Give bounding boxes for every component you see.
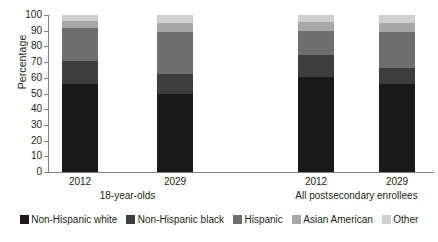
y-axis-tick-label: 80 <box>16 41 42 51</box>
legend-item[interactable]: Hispanic <box>233 214 283 225</box>
y-axis-tick-label: 10 <box>16 151 42 161</box>
bar-segment[interactable] <box>298 31 334 55</box>
y-axis-tick-mark <box>44 31 48 32</box>
y-axis-tick-label: 40 <box>16 104 42 114</box>
bar-segment[interactable] <box>298 77 334 172</box>
legend-swatch-icon <box>292 215 301 224</box>
legend-item[interactable]: Other <box>382 214 419 225</box>
y-axis-tick-mark <box>44 15 48 16</box>
y-axis-tick-mark <box>44 156 48 157</box>
y-axis-tick-labels: 0102030405060708090100 <box>16 8 42 180</box>
x-axis-group-label: All postsecondary enrollees <box>267 190 438 201</box>
y-axis-tick-label: 70 <box>16 57 42 67</box>
bar-segment[interactable] <box>157 23 193 32</box>
bar-segment[interactable] <box>62 28 98 62</box>
y-axis-tick-mark <box>44 109 48 110</box>
legend-item[interactable]: Non-Hispanic black <box>126 214 224 225</box>
y-axis-tick-mark <box>44 62 48 63</box>
bar-segment[interactable] <box>379 84 415 172</box>
bar-segment[interactable] <box>298 55 334 77</box>
y-axis-tick-mark <box>44 141 48 142</box>
legend-swatch-icon <box>126 215 135 224</box>
bar-segment[interactable] <box>379 32 415 68</box>
chart-legend: Non-Hispanic whiteNon-Hispanic blackHisp… <box>0 214 438 225</box>
legend-swatch-icon <box>20 215 29 224</box>
y-axis-tick-mark <box>44 172 48 173</box>
bar-segment[interactable] <box>379 15 415 23</box>
legend-item[interactable]: Non-Hispanic white <box>20 214 118 225</box>
stacked-bar-chart: Percentage 0102030405060708090100 Non-Hi… <box>0 0 438 242</box>
bar-stack[interactable] <box>62 15 98 172</box>
x-axis-tick-label: 2012 <box>45 176 115 187</box>
x-axis-tick-label: 2012 <box>281 176 351 187</box>
legend-label: Other <box>393 214 418 225</box>
y-axis-tick-label: 60 <box>16 73 42 83</box>
bar-segment[interactable] <box>157 74 193 94</box>
plot-area <box>48 15 434 172</box>
x-axis-tick-label: 2029 <box>362 176 432 187</box>
y-axis-tick-label: 20 <box>16 136 42 146</box>
bar-stack[interactable] <box>157 15 193 172</box>
y-axis-tick-label: 100 <box>16 10 42 20</box>
legend-label: Hispanic <box>244 214 282 225</box>
y-axis-tick-mark <box>44 94 48 95</box>
y-axis-tick-mark <box>44 46 48 47</box>
y-axis-tick-label: 90 <box>16 26 42 36</box>
legend-label: Asian American <box>303 214 372 225</box>
bar-segment[interactable] <box>157 15 193 23</box>
x-axis-line <box>48 172 434 173</box>
bar-stack[interactable] <box>298 15 334 172</box>
bar-segment[interactable] <box>157 94 193 173</box>
y-axis-tick-label: 0 <box>16 167 42 177</box>
legend-item[interactable]: Asian American <box>292 214 373 225</box>
legend-swatch-icon <box>382 215 391 224</box>
bar-segment[interactable] <box>157 32 193 74</box>
bar-segment[interactable] <box>62 61 98 84</box>
y-axis-tick-label: 50 <box>16 89 42 99</box>
x-axis-group-label: 18-year-olds <box>38 190 218 201</box>
legend-label: Non-Hispanic white <box>31 214 117 225</box>
bar-segment[interactable] <box>379 68 415 84</box>
bar-segment[interactable] <box>379 23 415 32</box>
y-axis-tick-mark <box>44 125 48 126</box>
y-axis-tick-mark <box>44 78 48 79</box>
bar-stack[interactable] <box>379 15 415 172</box>
x-axis-tick-label: 2029 <box>140 176 210 187</box>
legend-label: Non-Hispanic black <box>138 214 224 225</box>
bar-segment[interactable] <box>62 84 98 172</box>
y-axis-tick-label: 30 <box>16 120 42 130</box>
legend-swatch-icon <box>233 215 242 224</box>
bar-segment[interactable] <box>298 22 334 31</box>
bar-segment[interactable] <box>298 15 334 22</box>
